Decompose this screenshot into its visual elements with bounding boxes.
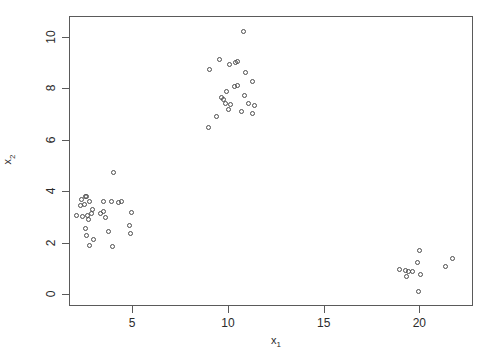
y-axis-tick bbox=[62, 37, 69, 38]
y-axis-tick-label: 6 bbox=[44, 133, 58, 147]
x-axis-label: x1 bbox=[271, 334, 281, 349]
y-axis-tick bbox=[62, 140, 69, 141]
x-axis-tick-label: 20 bbox=[413, 316, 426, 330]
x-axis-tick-label: 15 bbox=[317, 316, 330, 330]
y-axis-tick bbox=[62, 191, 69, 192]
y-axis-tick-label: 4 bbox=[44, 184, 58, 198]
x-axis-tick-label: 5 bbox=[129, 316, 136, 330]
x-axis-tick bbox=[419, 306, 420, 313]
y-axis-tick bbox=[62, 294, 69, 295]
y-axis-tick-label: 0 bbox=[44, 287, 58, 301]
x-axis-tick bbox=[132, 306, 133, 313]
y-axis-tick-label: 8 bbox=[44, 81, 58, 95]
y-axis-tick-label: 2 bbox=[44, 236, 58, 250]
x-axis-tick bbox=[324, 306, 325, 313]
x-axis-tick-label: 10 bbox=[221, 316, 234, 330]
y-axis-tick-label: 10 bbox=[44, 30, 58, 44]
y-axis-label: x2 bbox=[1, 155, 16, 165]
y-axis-tick bbox=[62, 243, 69, 244]
plot-frame bbox=[69, 16, 473, 306]
x-axis-tick bbox=[228, 306, 229, 313]
y-axis-tick bbox=[62, 88, 69, 89]
scatter-plot-figure: x1 x2 51015200246810 bbox=[0, 0, 490, 357]
